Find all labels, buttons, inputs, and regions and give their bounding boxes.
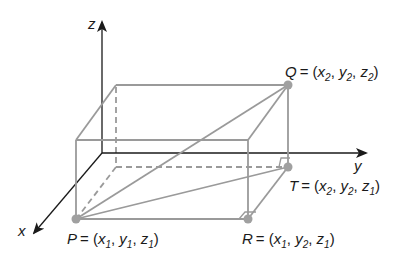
diagonal-PQ (76, 85, 288, 219)
rectangular-box-diagram: z y x Q= (x2, y2, z2) T= (x2, y2, z1) P=… (0, 0, 393, 266)
point-T (284, 163, 293, 172)
diagonals (76, 85, 288, 219)
coordinate-axes (34, 22, 366, 233)
point-P (72, 215, 81, 224)
point-R (244, 215, 253, 224)
point-P-label: P= (x1, y1, z1) (67, 230, 159, 250)
diagonal-PT (76, 167, 288, 219)
x-axis-label: x (17, 222, 26, 239)
edge-left-top (76, 85, 116, 140)
y-axis-label: y (353, 157, 363, 174)
point-Q-label: Q= (x2, y2, z2) (285, 63, 378, 83)
z-axis-label: z (87, 15, 96, 32)
edge-right-top (248, 85, 288, 140)
x-axis (34, 153, 102, 233)
point-Q (284, 81, 293, 90)
point-T-label: T= (x2, y2, z1) (289, 177, 380, 197)
point-R-label: R= (x1, y2, z1) (242, 230, 335, 250)
